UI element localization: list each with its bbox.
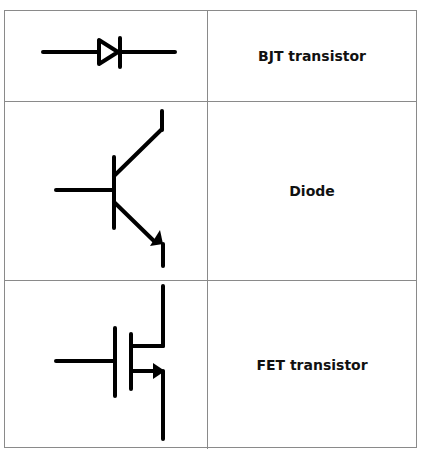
symbol-cell xyxy=(5,11,208,101)
table-row: FET transistor xyxy=(5,281,416,449)
symbol-cell xyxy=(5,281,208,449)
component-label: Diode xyxy=(289,183,335,199)
matching-table: BJT transistor Diode xyxy=(4,10,417,448)
component-label: FET transistor xyxy=(256,357,367,373)
label-cell: FET transistor xyxy=(208,281,416,449)
table-row: BJT transistor xyxy=(5,11,416,102)
bjt-transistor-symbol-icon xyxy=(5,102,208,281)
fet-transistor-symbol-icon xyxy=(5,281,208,449)
diode-symbol-icon xyxy=(5,11,208,102)
table-row: Diode xyxy=(5,102,416,281)
label-cell: Diode xyxy=(208,102,416,280)
component-label: BJT transistor xyxy=(258,48,366,64)
label-cell: BJT transistor xyxy=(208,11,416,101)
symbol-cell xyxy=(5,102,208,280)
